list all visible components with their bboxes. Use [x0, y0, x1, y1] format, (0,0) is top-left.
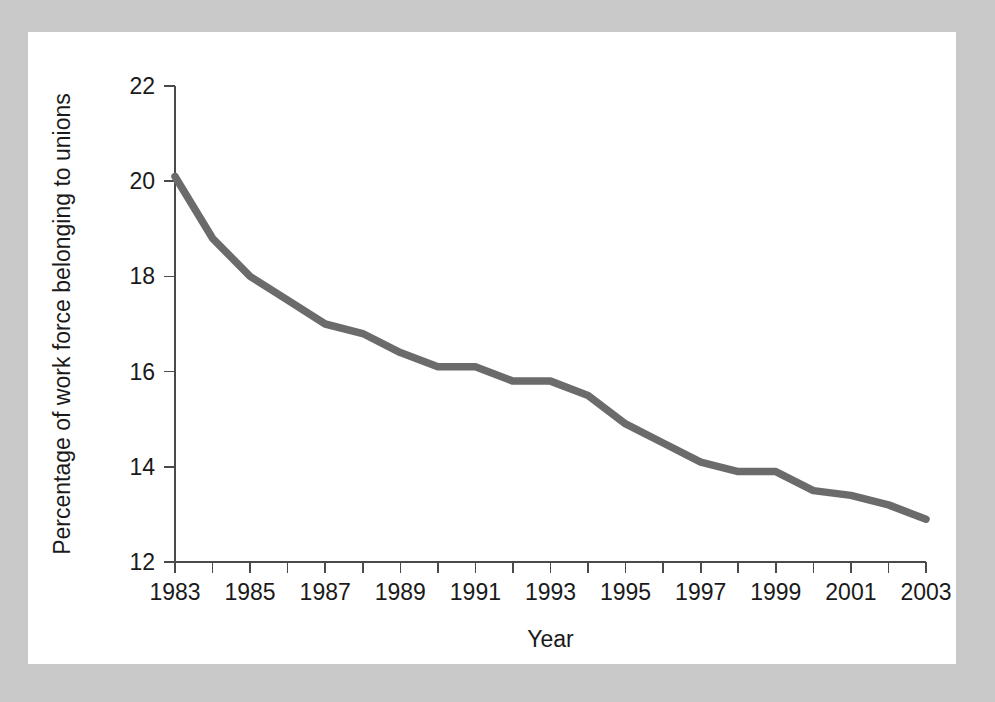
y-tick-label: 14 — [129, 454, 155, 480]
x-axis-ticks — [175, 562, 926, 573]
x-tick-label: 1997 — [675, 579, 726, 605]
y-tick-label: 20 — [129, 168, 155, 194]
x-tick-label: 1985 — [225, 579, 276, 605]
y-axis-tick-labels: 121416182022 — [129, 73, 155, 575]
y-tick-label: 22 — [129, 73, 155, 99]
y-axis-title: Percentage of work force belonging to un… — [49, 93, 75, 555]
y-tick-label: 16 — [129, 359, 155, 385]
x-tick-label: 1987 — [300, 579, 351, 605]
x-tick-label: 1991 — [450, 579, 501, 605]
y-axis-ticks — [164, 86, 175, 562]
x-tick-label: 2003 — [900, 579, 951, 605]
x-tick-label: 1983 — [149, 579, 200, 605]
x-tick-label: 1995 — [600, 579, 651, 605]
x-axis-title: Year — [527, 626, 574, 652]
figure-frame: 121416182022 198319851987198919911993199… — [0, 0, 995, 702]
x-tick-label: 1993 — [525, 579, 576, 605]
x-tick-label: 2001 — [825, 579, 876, 605]
y-tick-label: 12 — [129, 549, 155, 575]
x-tick-label: 1999 — [750, 579, 801, 605]
data-series-line — [175, 176, 926, 519]
y-tick-label: 18 — [129, 263, 155, 289]
line-chart: 121416182022 198319851987198919911993199… — [28, 32, 956, 664]
chart-card: 121416182022 198319851987198919911993199… — [28, 32, 956, 664]
x-axis-tick-labels: 1983198519871989199119931995199719992001… — [149, 579, 951, 605]
x-tick-label: 1989 — [375, 579, 426, 605]
